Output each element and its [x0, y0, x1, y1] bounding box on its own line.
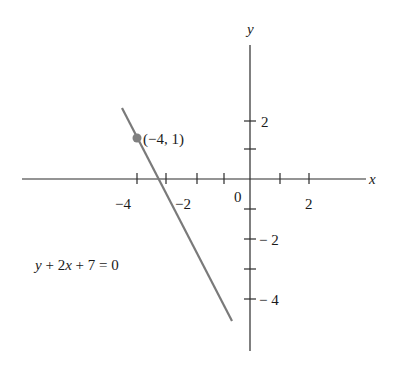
x-label--2: −2	[175, 196, 191, 212]
x-label--4: −4	[115, 196, 131, 212]
y-label--4: − 4	[259, 292, 279, 308]
x-label-2: 2	[305, 196, 313, 212]
y-label--2: − 2	[259, 232, 279, 248]
x-axis-label: x	[368, 171, 376, 187]
origin-label: 0	[234, 189, 242, 205]
point-label: (−4, 1)	[143, 131, 184, 148]
point-marker	[133, 134, 142, 143]
y-label-2: 2	[261, 114, 269, 130]
equation-label: y + 2x + 7 = 0	[33, 257, 119, 273]
y-axis-label: y	[245, 21, 254, 37]
coordinate-plane: x y −4 −2 0 2 2 − 2 − 4 (−4, 1) y + 2x +…	[0, 0, 401, 369]
